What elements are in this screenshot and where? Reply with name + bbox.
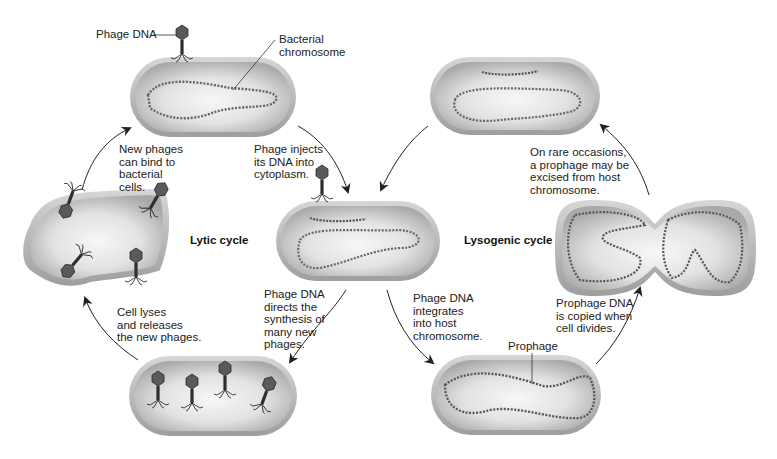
lytic-cycle-title: Lytic cycle — [190, 234, 248, 246]
step-copied-divides: Prophage DNA is copied when cell divides… — [556, 297, 633, 335]
bacterial-cell-prophage — [431, 355, 601, 435]
bacterial-cell-dividing — [555, 200, 756, 296]
step-phage-injects: Phage injects its DNA into cytoplasm. — [254, 143, 323, 181]
step-directs-synthesis: Phage DNA directs the synthesis of many … — [264, 288, 325, 351]
step-cell-lyses: Cell lyses and releases the new phages. — [117, 306, 201, 344]
label-bacterial-chromosome: Bacterial chromosome — [279, 33, 345, 58]
lysogenic-cycle-title: Lysogenic cycle — [464, 234, 552, 246]
label-phage-dna: Phage DNA — [96, 28, 157, 41]
bacterial-cell-injected — [276, 201, 440, 281]
bacterial-cell-excised — [430, 57, 600, 135]
step-integrates: Phage DNA integrates into host chromosom… — [413, 292, 483, 342]
bacterial-cell-infection — [130, 57, 296, 137]
step-new-phages-bind: New phages can bind to bacterial cells. — [119, 143, 183, 193]
label-prophage: Prophage — [508, 340, 558, 353]
step-excised: On rare occasions, a prophage may be exc… — [530, 146, 629, 196]
phage-cycle-diagram — [0, 0, 777, 459]
phage-icon — [171, 25, 193, 62]
lysed-bacterial-cell — [23, 189, 169, 286]
bacterial-cell-new-phages — [129, 356, 297, 436]
